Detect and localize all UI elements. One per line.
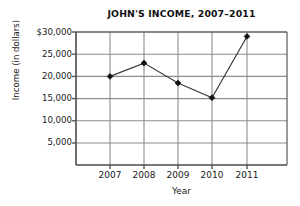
data-point-marker (107, 74, 113, 80)
line-chart: JOHN'S INCOME, 2007–2011 Income (in doll… (0, 0, 300, 206)
axis-ticks (72, 32, 247, 169)
data-point-marker (141, 60, 147, 66)
data-point-marker (209, 95, 215, 101)
plot-area (0, 0, 300, 206)
grid-lines (76, 32, 287, 165)
data-point-marker (244, 34, 250, 40)
data-point-marker (175, 80, 181, 86)
